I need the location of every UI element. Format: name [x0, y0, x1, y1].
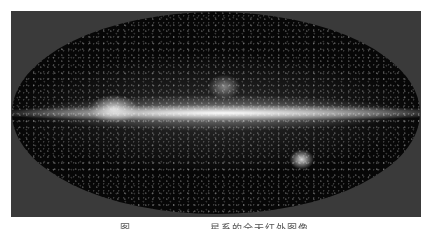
- figure-frame: [11, 11, 421, 217]
- figure-caption: 图 星系的全天红外图像: [0, 220, 429, 229]
- caption-text: 星系的全天红外图像: [210, 223, 309, 229]
- all-sky-infrared-image: [12, 12, 420, 214]
- star-field: [12, 12, 420, 214]
- caption-prefix: 图: [120, 223, 131, 229]
